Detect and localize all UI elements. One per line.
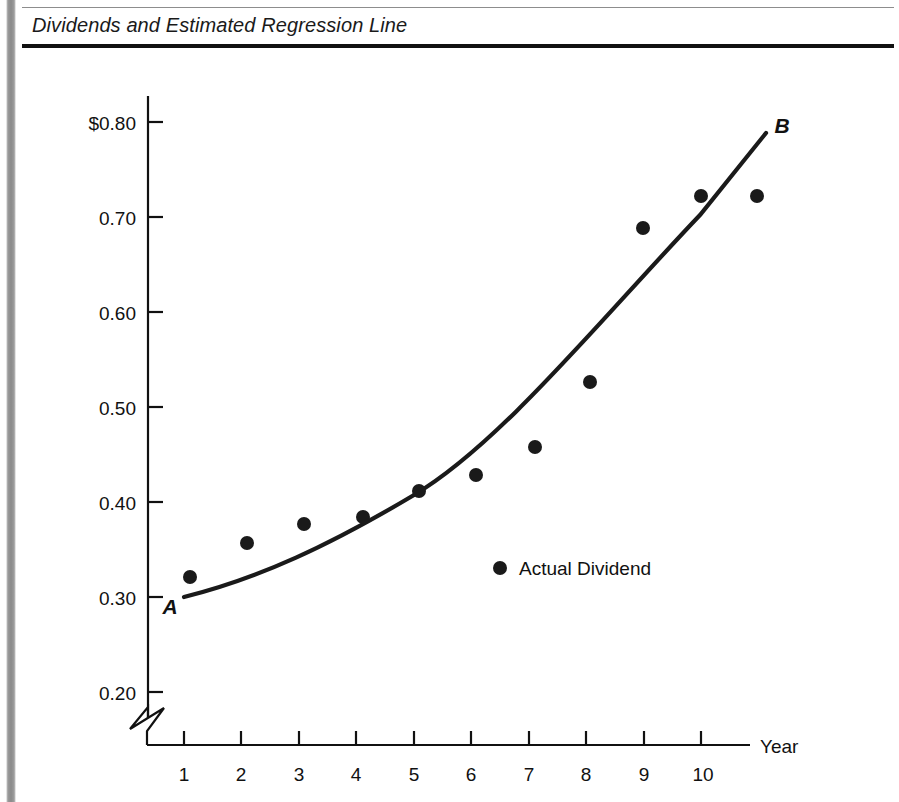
data-point	[469, 468, 483, 482]
x-tick-label-0: 1	[179, 764, 190, 785]
x-axis	[147, 731, 750, 745]
y-tick-label-5: 0.30	[99, 588, 136, 609]
x-tick-label-4: 5	[409, 764, 420, 785]
data-point	[528, 440, 542, 454]
x-tick-label-5: 6	[466, 764, 477, 785]
y-tick-label-0: $0.80	[88, 113, 136, 134]
legend: Actual Dividend	[493, 558, 651, 579]
curve-end-label-b: B	[774, 114, 789, 137]
y-axis-break-zigzag	[130, 707, 164, 745]
x-tick-label-3: 4	[351, 764, 362, 785]
data-points-group	[183, 189, 764, 584]
x-tick-label-1: 2	[236, 764, 247, 785]
x-tick-label-6: 7	[524, 764, 535, 785]
x-tick-label-9: 10	[692, 764, 713, 785]
x-axis-title: Year	[760, 736, 799, 757]
y-tick-label-6: 0.20	[99, 683, 136, 704]
data-point	[412, 484, 426, 498]
data-point	[636, 221, 650, 235]
y-tick-label-1: 0.70	[99, 208, 136, 229]
regression-curve	[184, 133, 766, 597]
data-point	[694, 189, 708, 203]
x-tick-label-2: 3	[294, 764, 305, 785]
legend-label: Actual Dividend	[519, 558, 651, 579]
y-axis	[148, 96, 163, 718]
data-point	[356, 510, 370, 524]
data-point	[297, 517, 311, 531]
x-tick-label-8: 9	[639, 764, 650, 785]
chart-plot-area: $0.80 0.70 0.60 0.50 0.40 0.30 0.20	[0, 0, 899, 802]
data-point	[583, 375, 597, 389]
y-tick-label-2: 0.60	[99, 303, 136, 324]
legend-marker-icon	[493, 561, 507, 575]
x-tick-label-7: 8	[581, 764, 592, 785]
curve-start-label-a: A	[161, 595, 177, 618]
data-point	[240, 536, 254, 550]
y-tick-label-4: 0.40	[99, 493, 136, 514]
data-point	[183, 570, 197, 584]
figure-page: Dividends and Estimated Regression Line …	[0, 0, 899, 802]
y-tick-label-3: 0.50	[99, 398, 136, 419]
chart-svg: $0.80 0.70 0.60 0.50 0.40 0.30 0.20	[0, 0, 899, 802]
data-point	[750, 189, 764, 203]
